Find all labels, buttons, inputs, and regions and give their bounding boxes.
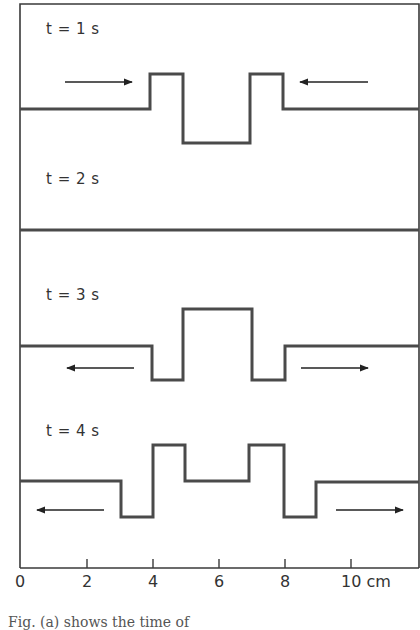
tick-label-2: 2 (82, 572, 92, 591)
waveform-t3 (20, 309, 419, 380)
tick-label-4: 4 (148, 572, 158, 591)
tick-label-6: 6 (214, 572, 224, 591)
panel-label-t4: t = 4 s (46, 422, 100, 440)
panel-label-t2: t = 2 s (46, 170, 100, 188)
waveform-t1 (20, 74, 419, 143)
axis-ticks (87, 559, 351, 568)
panel-label-t3: t = 3 s (46, 286, 100, 304)
tick-label-0: 0 (15, 572, 25, 591)
figure-caption: Fig. (a) shows the time of (8, 614, 189, 630)
waveform-t4 (20, 445, 419, 517)
tick-label-10cm: 10 cm (341, 572, 391, 591)
tick-label-8: 8 (280, 572, 290, 591)
panel-label-t1: t = 1 s (46, 20, 100, 38)
